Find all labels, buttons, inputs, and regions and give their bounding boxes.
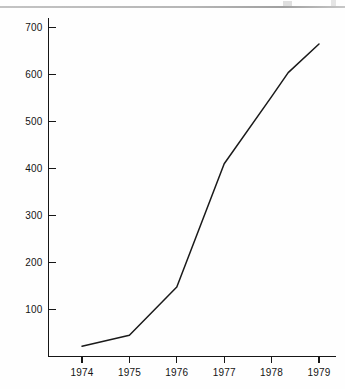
x-tick-labels: 197419751976197719781979 [70,367,330,378]
x-tick-label: 1978 [260,367,283,378]
y-axis [49,18,56,357]
y-tick-label: 200 [25,257,43,268]
x-tick-label: 1979 [307,367,330,378]
y-tick-label: 400 [25,163,43,174]
x-axis [49,357,337,363]
x-tick-label: 1976 [165,367,188,378]
y-tick-label: 700 [25,22,43,33]
x-tick-label: 1975 [118,367,141,378]
data-series-line [82,44,319,346]
chart-figure: 100200300400500600700 197419751976197719… [0,0,345,389]
y-tick-label: 500 [25,116,43,127]
y-tick-label: 100 [25,304,43,315]
y-tick-label: 300 [25,210,43,221]
y-tick-label: 600 [25,69,43,80]
line-chart-plot: 100200300400500600700 197419751976197719… [0,0,345,389]
y-tick-labels: 100200300400500600700 [25,22,43,315]
x-tick-label: 1977 [213,367,236,378]
x-tick-label: 1974 [70,367,93,378]
x-axis-ticks [82,357,319,363]
y-axis-ticks [49,28,56,310]
